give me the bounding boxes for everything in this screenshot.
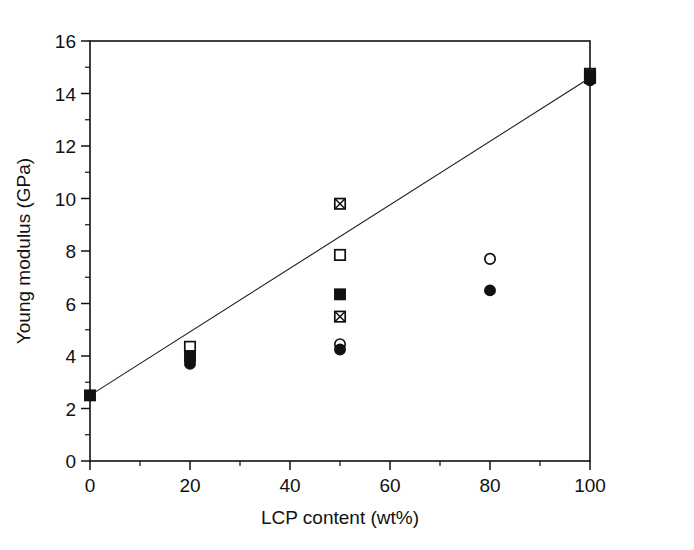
data-point-filled-circle xyxy=(185,359,195,369)
marker-filled-circle xyxy=(485,285,495,295)
young-modulus-scatter-figure: 0246810121416020406080100LCP content (wt… xyxy=(0,0,694,550)
y-tick-label: 14 xyxy=(55,84,77,105)
y-tick-label: 4 xyxy=(65,346,76,367)
y-tick-label: 6 xyxy=(65,294,76,315)
data-point-filled-circle xyxy=(335,344,345,354)
marker-filled-circle xyxy=(185,359,195,369)
y-tick-label: 0 xyxy=(65,451,76,472)
y-tick-label: 10 xyxy=(55,189,76,210)
data-point-open-square xyxy=(335,250,345,260)
y-tick-label: 8 xyxy=(65,241,76,262)
marker-filled-circle xyxy=(585,75,595,85)
y-tick-label: 12 xyxy=(55,136,76,157)
x-axis-title: LCP content (wt%) xyxy=(261,507,419,528)
data-point-filled-square xyxy=(85,390,95,400)
marker-open-square xyxy=(335,250,345,260)
marker-filled-circle xyxy=(335,344,345,354)
x-tick-label: 0 xyxy=(85,475,96,496)
y-tick-label: 16 xyxy=(55,31,76,52)
data-point-filled-square xyxy=(335,289,345,299)
x-tick-label: 40 xyxy=(279,475,300,496)
marker-filled-square xyxy=(335,289,345,299)
x-tick-label: 80 xyxy=(479,475,500,496)
x-tick-label: 20 xyxy=(179,475,200,496)
marker-filled-square xyxy=(85,390,95,400)
chart-graphics xyxy=(81,41,595,470)
y-tick-label: 2 xyxy=(65,399,76,420)
data-point-filled-circle xyxy=(585,75,595,85)
data-point-crossed-square xyxy=(335,199,345,209)
marker-open-circle xyxy=(485,254,495,264)
x-tick-label: 100 xyxy=(574,475,606,496)
data-point-open-circle xyxy=(485,254,495,264)
x-tick-label: 60 xyxy=(379,475,400,496)
y-axis-title: Young modulus (GPa) xyxy=(13,158,34,344)
data-point-filled-circle xyxy=(485,285,495,295)
chart-labels: 0246810121416020406080100LCP content (wt… xyxy=(13,31,606,528)
chart-canvas: 0246810121416020406080100LCP content (wt… xyxy=(0,0,694,550)
data-point-crossed-square xyxy=(335,311,345,321)
